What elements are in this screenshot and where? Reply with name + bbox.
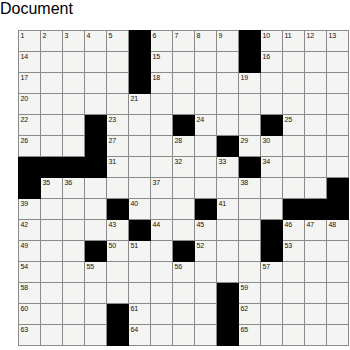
crossword-cell[interactable] [239, 115, 261, 136]
crossword-cell[interactable] [85, 73, 107, 94]
crossword-cell[interactable]: 13 [327, 31, 349, 52]
crossword-cell[interactable] [63, 325, 85, 346]
crossword-cell[interactable]: 44 [151, 220, 173, 241]
crossword-cell[interactable] [261, 73, 283, 94]
crossword-cell[interactable] [195, 178, 217, 199]
crossword-cell[interactable]: 22 [19, 115, 41, 136]
crossword-cell[interactable]: 19 [239, 73, 261, 94]
crossword-cell[interactable] [261, 304, 283, 325]
crossword-cell[interactable] [85, 304, 107, 325]
crossword-cell[interactable]: 24 [195, 115, 217, 136]
crossword-cell[interactable] [283, 262, 305, 283]
crossword-cell[interactable]: 41 [217, 199, 239, 220]
crossword-cell[interactable] [63, 262, 85, 283]
crossword-cell[interactable] [85, 52, 107, 73]
crossword-cell[interactable] [41, 52, 63, 73]
crossword-cell[interactable]: 27 [107, 136, 129, 157]
crossword-cell[interactable] [41, 73, 63, 94]
crossword-cell[interactable] [283, 52, 305, 73]
crossword-cell[interactable] [305, 136, 327, 157]
crossword-cell[interactable]: 26 [19, 136, 41, 157]
crossword-cell[interactable] [261, 199, 283, 220]
crossword-cell[interactable]: 36 [63, 178, 85, 199]
crossword-cell[interactable] [41, 115, 63, 136]
crossword-cell[interactable] [41, 262, 63, 283]
crossword-cell[interactable] [283, 283, 305, 304]
crossword-cell[interactable] [129, 136, 151, 157]
crossword-cell[interactable] [261, 325, 283, 346]
crossword-cell[interactable] [305, 157, 327, 178]
crossword-cell[interactable]: 23 [107, 115, 129, 136]
crossword-cell[interactable]: 30 [261, 136, 283, 157]
crossword-cell[interactable] [305, 304, 327, 325]
crossword-cell[interactable]: 7 [173, 31, 195, 52]
crossword-cell[interactable] [195, 73, 217, 94]
crossword-cell[interactable] [151, 115, 173, 136]
crossword-cell[interactable] [107, 94, 129, 115]
crossword-cell[interactable] [173, 325, 195, 346]
crossword-cell[interactable] [63, 241, 85, 262]
crossword-cell[interactable] [195, 157, 217, 178]
crossword-cell[interactable] [217, 241, 239, 262]
crossword-cell[interactable] [63, 199, 85, 220]
crossword-cell[interactable] [85, 325, 107, 346]
crossword-cell[interactable]: 61 [129, 304, 151, 325]
crossword-cell[interactable] [63, 136, 85, 157]
crossword-cell[interactable] [283, 325, 305, 346]
crossword-cell[interactable]: 11 [283, 31, 305, 52]
crossword-cell[interactable] [107, 73, 129, 94]
crossword-cell[interactable] [261, 283, 283, 304]
crossword-cell[interactable] [63, 73, 85, 94]
crossword-cell[interactable] [107, 52, 129, 73]
crossword-cell[interactable] [305, 325, 327, 346]
crossword-cell[interactable] [129, 262, 151, 283]
crossword-cell[interactable]: 28 [173, 136, 195, 157]
crossword-cell[interactable]: 59 [239, 283, 261, 304]
crossword-cell[interactable] [327, 73, 349, 94]
crossword-cell[interactable] [173, 52, 195, 73]
crossword-cell[interactable]: 8 [195, 31, 217, 52]
crossword-cell[interactable] [63, 220, 85, 241]
crossword-cell[interactable] [327, 136, 349, 157]
crossword-cell[interactable] [85, 94, 107, 115]
crossword-cell[interactable] [195, 283, 217, 304]
crossword-cell[interactable] [151, 94, 173, 115]
crossword-cell[interactable] [283, 94, 305, 115]
crossword-cell[interactable] [239, 262, 261, 283]
crossword-cell[interactable] [173, 220, 195, 241]
crossword-cell[interactable] [63, 304, 85, 325]
crossword-cell[interactable] [41, 220, 63, 241]
crossword-cell[interactable]: 53 [283, 241, 305, 262]
crossword-cell[interactable] [151, 199, 173, 220]
crossword-cell[interactable] [63, 283, 85, 304]
crossword-cell[interactable] [305, 115, 327, 136]
crossword-cell[interactable]: 45 [195, 220, 217, 241]
crossword-cell[interactable] [85, 283, 107, 304]
crossword-cell[interactable] [283, 136, 305, 157]
crossword-cell[interactable] [239, 94, 261, 115]
crossword-cell[interactable]: 55 [85, 262, 107, 283]
crossword-cell[interactable] [41, 199, 63, 220]
crossword-cell[interactable] [85, 178, 107, 199]
crossword-cell[interactable] [195, 136, 217, 157]
crossword-cell[interactable] [327, 325, 349, 346]
crossword-cell[interactable]: 12 [305, 31, 327, 52]
crossword-cell[interactable] [239, 199, 261, 220]
crossword-cell[interactable] [327, 115, 349, 136]
crossword-cell[interactable]: 16 [261, 52, 283, 73]
crossword-cell[interactable] [283, 73, 305, 94]
crossword-cell[interactable] [85, 199, 107, 220]
crossword-cell[interactable]: 42 [19, 220, 41, 241]
crossword-cell[interactable] [283, 178, 305, 199]
crossword-cell[interactable] [151, 304, 173, 325]
crossword-cell[interactable]: 4 [85, 31, 107, 52]
crossword-cell[interactable] [41, 94, 63, 115]
crossword-cell[interactable]: 56 [173, 262, 195, 283]
crossword-cell[interactable]: 37 [151, 178, 173, 199]
crossword-cell[interactable]: 14 [19, 52, 41, 73]
crossword-cell[interactable]: 64 [129, 325, 151, 346]
crossword-cell[interactable] [327, 241, 349, 262]
crossword-cell[interactable] [327, 157, 349, 178]
crossword-cell[interactable] [327, 52, 349, 73]
crossword-cell[interactable]: 60 [19, 304, 41, 325]
